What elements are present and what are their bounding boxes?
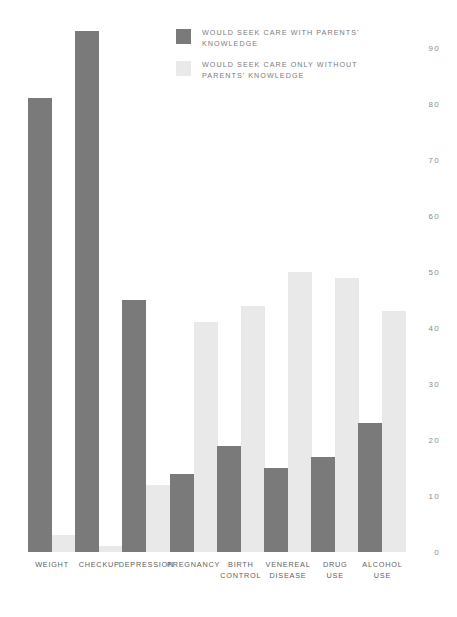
y-axis-tick-label: 40: [414, 324, 440, 333]
y-axis-tick-label: 90: [414, 44, 440, 53]
bar-without-parents-knowledge: [99, 546, 123, 552]
bar-with-parents-knowledge: [311, 457, 335, 552]
bar-with-parents-knowledge: [358, 423, 382, 552]
bar-group: VENEREAL DISEASE: [264, 32, 312, 552]
bar-without-parents-knowledge: [288, 272, 312, 552]
y-axis-tick-label: 0: [414, 548, 440, 557]
bar-group: CHECKUP: [75, 32, 123, 552]
bar-with-parents-knowledge: [75, 31, 99, 552]
bar-group: PREGNANCY: [170, 32, 218, 552]
y-axis-tick-label: 20: [414, 436, 440, 445]
bar-chart: WOULD SEEK CARE WITH PARENTS' KNOWLEDGE …: [0, 0, 457, 617]
x-axis-category-label: ALCOHOL USE: [345, 560, 419, 581]
bar-with-parents-knowledge: [264, 468, 288, 552]
bar-with-parents-knowledge: [28, 98, 52, 552]
bar-without-parents-knowledge: [335, 278, 359, 552]
bar-group: BIRTH CONTROL: [217, 32, 265, 552]
bar-group: ALCOHOL USE: [358, 32, 406, 552]
bar-group: DRUG USE: [311, 32, 359, 552]
y-axis: 0102030405060708090: [414, 0, 457, 617]
plot-area: WEIGHTCHECKUPDEPRESSIONPREGNANCYBIRTH CO…: [0, 0, 410, 617]
bar-without-parents-knowledge: [382, 311, 406, 552]
y-axis-tick-label: 30: [414, 380, 440, 389]
bar-without-parents-knowledge: [146, 485, 170, 552]
bar-with-parents-knowledge: [122, 300, 146, 552]
bar-with-parents-knowledge: [170, 474, 194, 552]
y-axis-tick-label: 70: [414, 156, 440, 165]
bar-with-parents-knowledge: [217, 446, 241, 552]
y-axis-tick-label: 10: [414, 492, 440, 501]
bar-group: DEPRESSION: [122, 32, 170, 552]
bar-without-parents-knowledge: [241, 306, 265, 552]
bar-group: WEIGHT: [28, 32, 76, 552]
y-axis-tick-label: 50: [414, 268, 440, 277]
y-axis-tick-label: 60: [414, 212, 440, 221]
y-axis-tick-label: 80: [414, 100, 440, 109]
bar-without-parents-knowledge: [194, 322, 218, 552]
bar-without-parents-knowledge: [52, 535, 76, 552]
